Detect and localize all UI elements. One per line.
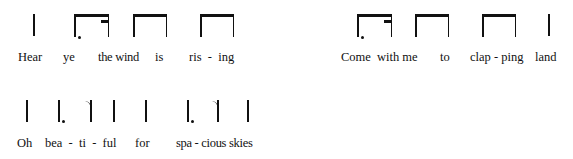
sixteenth-stem <box>391 14 393 37</box>
eighth-stem <box>200 14 202 37</box>
eighth-stem <box>415 14 417 37</box>
lyric-syllable: Hear <box>18 51 42 64</box>
lyric-syllable: for <box>135 137 150 150</box>
lyric-syllable: the wind <box>98 51 139 64</box>
lyric-syllable: Come <box>341 51 371 64</box>
quarter-note-stem <box>548 14 550 36</box>
lyric-syllable: bea - ti - ful <box>45 137 117 150</box>
dotted-eighth-stem <box>74 14 76 37</box>
lyric-syllable: Oh <box>17 137 32 150</box>
eighth-stem <box>482 14 484 37</box>
lyric-syllable: with me <box>377 51 418 64</box>
augmentation-dot <box>78 36 81 39</box>
augmentation-dot <box>361 36 364 39</box>
eighth-stem <box>448 14 450 37</box>
eighth-stem <box>133 14 135 37</box>
quarter-note-stem <box>145 100 147 122</box>
quarter-note-stem <box>26 100 28 122</box>
lyric-syllable: clap - ping <box>470 51 523 64</box>
eighth-beam <box>133 14 167 17</box>
dotted-eighth-stem <box>357 14 359 37</box>
lyric-syllable: ris - ing <box>189 51 234 64</box>
lyric-syllable: to <box>440 51 450 64</box>
eighth-stem <box>515 14 517 37</box>
quarter-note-stem <box>247 100 249 122</box>
sixteenth-stem <box>108 14 110 37</box>
dotted-quarter-stem <box>58 100 60 122</box>
lyric-syllable: ye <box>63 51 75 64</box>
quarter-note-stem <box>33 14 35 36</box>
lyric-syllable: land <box>535 51 557 64</box>
eighth-stem <box>233 14 235 37</box>
lyric-syllable: spa - cious skies <box>176 137 253 150</box>
eighth-beam <box>74 14 109 17</box>
augmentation-dot <box>62 120 65 123</box>
augmentation-dot <box>191 120 194 123</box>
eighth-stem <box>166 14 168 37</box>
quarter-note-stem <box>113 100 115 122</box>
dotted-quarter-stem <box>187 100 189 122</box>
lyric-syllable: is <box>155 51 163 64</box>
eighth-beam <box>482 14 516 17</box>
eighth-beam <box>200 14 234 17</box>
eighth-beam <box>357 14 392 17</box>
eighth-beam <box>415 14 449 17</box>
